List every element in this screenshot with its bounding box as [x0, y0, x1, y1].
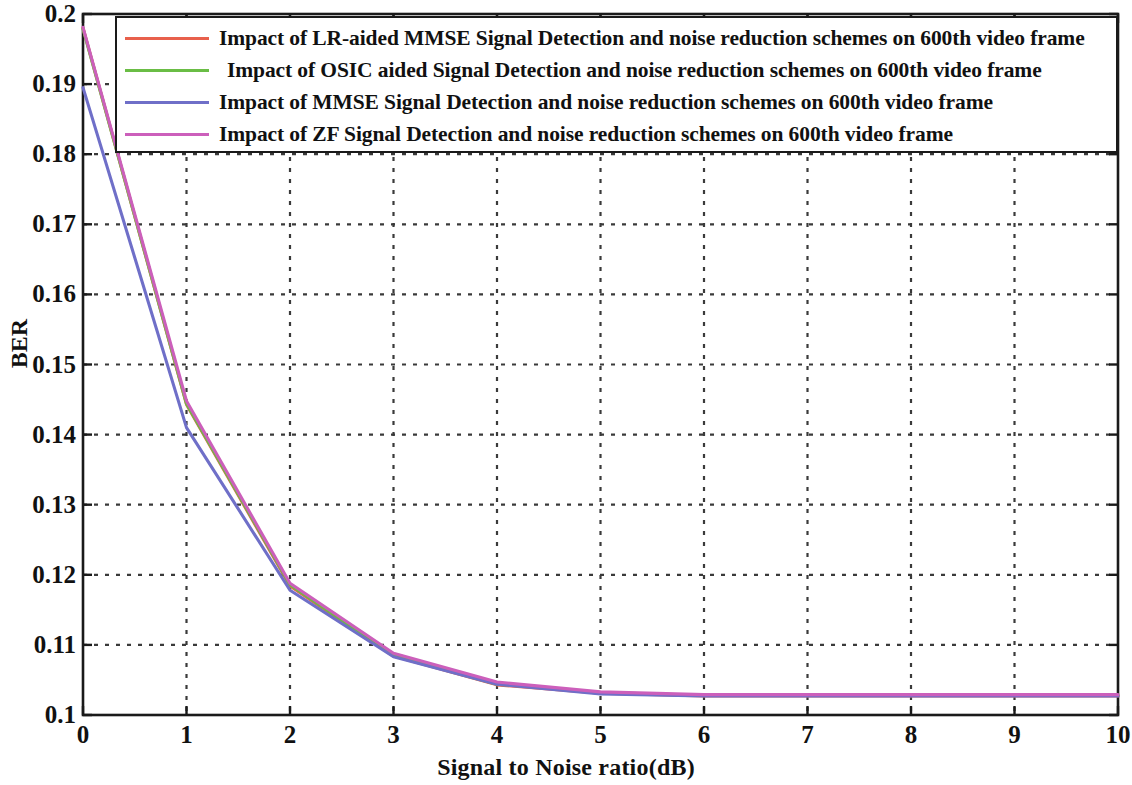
y-tick-label: 0.15	[32, 352, 76, 377]
x-tick-label: 5	[594, 722, 607, 747]
x-tick-label: 7	[801, 722, 814, 747]
y-axis-title: BER	[6, 309, 33, 379]
y-tick-label: 0.13	[32, 492, 76, 517]
y-tick-label: 0.14	[32, 422, 76, 447]
x-tick-label: 2	[284, 722, 297, 747]
legend-item[interactable]: Impact of OSIC aided Signal Detection an…	[117, 54, 1116, 86]
chart-figure: 0.10.110.120.130.140.150.160.170.180.190…	[0, 0, 1132, 785]
y-tick-label: 0.11	[34, 632, 76, 657]
x-tick-label: 4	[491, 722, 504, 747]
y-tick-label: 0.17	[32, 211, 76, 236]
x-tick-label: 10	[1106, 722, 1131, 747]
y-tick-label: 0.2	[45, 1, 76, 26]
legend-item-label: Impact of LR-aided MMSE Signal Detection…	[219, 26, 1085, 51]
legend-item[interactable]: Impact of MMSE Signal Detection and nois…	[117, 86, 1116, 118]
x-tick-label: 6	[698, 722, 711, 747]
legend-item-label: Impact of OSIC aided Signal Detection an…	[219, 58, 1042, 83]
y-tick-label: 0.18	[32, 141, 76, 166]
legend-color-swatch	[125, 37, 209, 40]
x-tick-label: 0	[77, 722, 90, 747]
y-tick-label: 0.16	[32, 281, 76, 306]
chart-legend: Impact of LR-aided MMSE Signal Detection…	[115, 16, 1118, 153]
legend-color-swatch	[125, 69, 209, 72]
legend-item[interactable]: Impact of ZF Signal Detection and noise …	[117, 118, 1116, 150]
x-axis-title: Signal to Noise ratio(dB)	[0, 754, 1132, 781]
y-axis-tick-labels: 0.10.110.120.130.140.150.160.170.180.190…	[0, 0, 76, 785]
x-tick-label: 9	[1008, 722, 1021, 747]
legend-color-swatch	[125, 133, 209, 136]
x-tick-label: 8	[905, 722, 918, 747]
legend-item-label: Impact of ZF Signal Detection and noise …	[219, 122, 953, 147]
legend-item[interactable]: Impact of LR-aided MMSE Signal Detection…	[117, 22, 1116, 54]
x-tick-label: 1	[180, 722, 193, 747]
legend-item-label: Impact of MMSE Signal Detection and nois…	[219, 90, 993, 115]
legend-color-swatch	[125, 101, 209, 104]
x-tick-label: 3	[387, 722, 400, 747]
y-tick-label: 0.12	[32, 562, 76, 587]
y-tick-label: 0.19	[32, 71, 76, 96]
x-axis-tick-labels: 012345678910	[0, 722, 1132, 756]
